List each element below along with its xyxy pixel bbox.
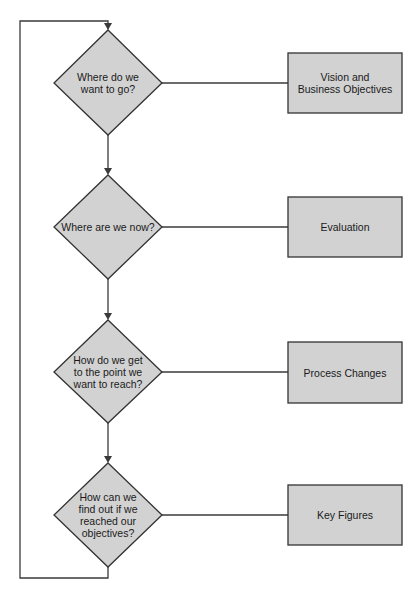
outcome-label-3: Process Changes [288,342,402,403]
outcome-label-1: Vision and Business Objectives [288,53,402,113]
decision-label-3: How do we get to the point we want to re… [60,352,156,392]
arrow-head-d3 [104,313,112,320]
arrow-head-top [104,23,112,30]
outcome-label-2: Evaluation [288,197,402,257]
decision-label-2: Where are we now? [54,219,162,235]
decision-label-4: How can we find out if we reached our ob… [62,489,154,541]
arrow-head-d2 [104,168,112,175]
arrow-head-d4 [104,456,112,463]
outcome-label-4: Key Figures [288,485,402,545]
decision-label-1: Where do we want to go? [60,60,156,106]
